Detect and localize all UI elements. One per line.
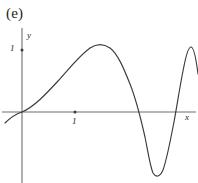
axes-group	[2, 28, 196, 183]
tick-marks-group	[21, 49, 77, 114]
x-axis-tick-label: 1	[72, 117, 77, 126]
x-axis-label: x	[185, 113, 189, 122]
x-axis-tick-1	[74, 111, 77, 114]
figure-panel: (e) y x 1 1	[0, 0, 198, 183]
plot-canvas	[0, 0, 198, 183]
plot-curve	[5, 45, 198, 177]
y-axis-tick-label: 1	[10, 44, 15, 53]
y-axis-label: y	[27, 31, 31, 40]
y-axis-tick-1	[21, 49, 24, 52]
